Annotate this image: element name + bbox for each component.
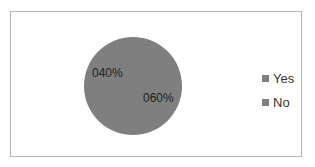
- legend-item-yes: Yes: [262, 66, 294, 90]
- legend-label: Yes: [273, 71, 294, 86]
- legend-label: No: [273, 95, 290, 110]
- legend-swatch-icon: [262, 99, 269, 106]
- pie-chart: [83, 36, 183, 136]
- data-label-yes: 040%: [92, 66, 123, 80]
- legend-swatch-icon: [262, 75, 269, 82]
- legend: Yes No: [262, 66, 294, 114]
- data-label-no: 060%: [143, 91, 174, 105]
- pie-slice-yes-no: [84, 37, 182, 135]
- legend-item-no: No: [262, 90, 294, 114]
